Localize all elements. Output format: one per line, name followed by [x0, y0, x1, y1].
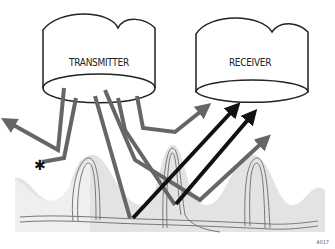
- receiver-label: RECEIVER: [229, 57, 271, 68]
- figure-number: 4017: [316, 239, 329, 245]
- absorption-star-icon: ✱: [34, 157, 46, 173]
- transmitter-label: TRANSMITTER: [68, 57, 129, 68]
- receiver-node: RECEIVER: [196, 18, 308, 102]
- transmitter-node: TRANSMITTER: [43, 14, 155, 103]
- diagram-canvas: TRANSMITTER RECEIVER ✱: [0, 0, 335, 249]
